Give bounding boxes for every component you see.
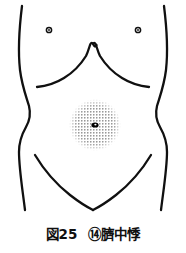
caption-point-name: 臍中悸 xyxy=(101,223,140,243)
torso-illustration xyxy=(0,0,186,215)
right-nipple-icon xyxy=(135,27,140,32)
figure-caption: 図25 ⑭ 臍中悸 xyxy=(0,218,186,248)
caption-point-number: ⑭ xyxy=(88,223,101,243)
navel-marker-icon xyxy=(91,122,98,127)
left-nipple-icon xyxy=(46,27,51,32)
caption-figure-label: 図25 xyxy=(46,223,78,243)
figure-container: 図25 ⑭ 臍中悸 xyxy=(0,0,186,253)
